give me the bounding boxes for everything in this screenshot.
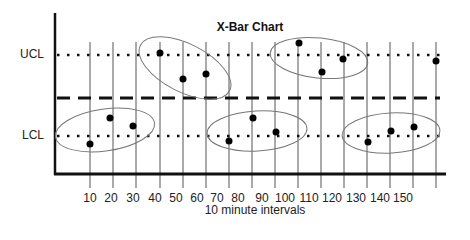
data-point	[433, 58, 440, 65]
data-point	[203, 71, 210, 78]
data-point	[107, 115, 114, 122]
point-groupings	[53, 24, 441, 158]
x-tick-label: 10	[83, 191, 96, 205]
data-point	[130, 123, 137, 130]
data-point	[157, 50, 164, 57]
data-point	[411, 124, 418, 131]
data-point	[319, 69, 326, 76]
data-point	[87, 141, 94, 148]
data-point	[340, 56, 347, 63]
data-point	[273, 129, 280, 136]
lcl-label: LCL	[22, 128, 44, 142]
x-tick-label: 140	[370, 191, 390, 205]
x-tick-label: 30	[126, 191, 139, 205]
x-tick-label: 130	[346, 191, 366, 205]
data-point	[296, 40, 303, 47]
x-tick-label: 40	[148, 191, 161, 205]
data-point	[180, 76, 187, 83]
data-point	[250, 115, 257, 122]
x-tick-label: 150	[393, 191, 413, 205]
grouping-ellipse	[268, 33, 370, 83]
data-point	[388, 128, 395, 135]
chart-title: X-Bar Chart	[200, 20, 300, 34]
vertical-gridlines	[90, 42, 436, 188]
data-point	[365, 139, 372, 146]
data-point	[226, 138, 233, 145]
grouping-ellipse	[206, 108, 308, 153]
ucl-label: UCL	[20, 47, 44, 61]
grouping-ellipse	[53, 102, 158, 158]
x-axis-label: 10 minute intervals	[175, 203, 335, 217]
x-tick-label: 20	[104, 191, 117, 205]
